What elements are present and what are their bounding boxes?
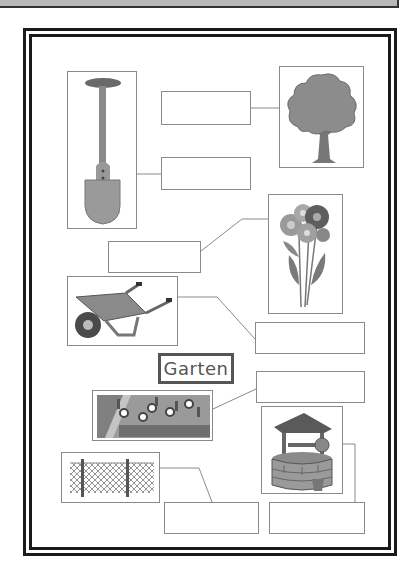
answer-box-tree[interactable] — [161, 91, 251, 125]
answer-box-fence[interactable] — [164, 502, 259, 534]
picture-wheelbarrow — [67, 276, 178, 346]
fence-icon — [62, 453, 160, 503]
picture-shovel — [67, 71, 137, 229]
answer-box-flowers[interactable] — [108, 241, 201, 273]
wheelbarrow-icon — [68, 277, 178, 346]
answer-box-well[interactable] — [269, 502, 365, 534]
answer-box-shovel[interactable] — [161, 157, 251, 190]
picture-fence — [61, 452, 160, 503]
flowerbed-icon — [93, 391, 213, 441]
shovel-icon — [68, 72, 137, 229]
top-header-bar — [0, 0, 399, 8]
picture-flowers — [268, 194, 343, 314]
well-icon — [262, 407, 343, 494]
picture-flowerbed — [92, 390, 213, 441]
tree-icon — [280, 67, 364, 168]
topic-label-garten: Garten — [158, 353, 234, 384]
flower-bouquet-icon — [269, 195, 343, 314]
answer-box-flowerbed[interactable] — [256, 371, 365, 403]
picture-well — [261, 406, 343, 494]
picture-tree — [279, 66, 364, 168]
answer-box-wheelbarrow[interactable] — [255, 322, 365, 354]
